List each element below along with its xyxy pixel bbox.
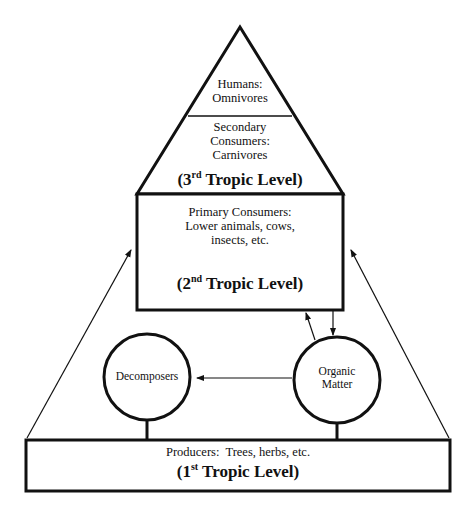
organic-matter-line-2: Matter: [302, 378, 372, 391]
first-level-prefix: (1: [177, 462, 191, 481]
third-level-suffix: Tropic Level): [202, 170, 303, 189]
third-level-line-2: Consumers:: [170, 134, 310, 148]
third-level-line-3: Carnivores: [170, 148, 310, 162]
third-level-line-1: Secondary: [170, 120, 310, 134]
decomposers-text: Decomposers: [116, 370, 179, 382]
second-level-line-3: insects, etc.: [140, 233, 340, 247]
first-level-line-1: Producers: Trees, herbs, etc.: [28, 445, 448, 459]
second-level-suffix: Tropic Level): [202, 274, 303, 293]
apex-label: Humans: Omnivores: [190, 77, 290, 105]
top-triangle: [137, 27, 343, 194]
decomposers-label: Decomposers: [107, 370, 187, 383]
first-level-suffix: Tropic Level): [198, 462, 299, 481]
apex-line-1: Humans:: [190, 77, 290, 91]
second-level-line-2: Lower animals, cows,: [140, 219, 340, 233]
apex-line-2: Omnivores: [190, 91, 290, 105]
third-level-sup: rd: [192, 169, 202, 180]
first-level-label: Producers: Trees, herbs, etc.: [28, 445, 448, 459]
third-level-label: Secondary Consumers: Carnivores: [170, 120, 310, 162]
organic-to-box-arrow: [306, 313, 315, 340]
organic-matter-label: Organic Matter: [302, 365, 372, 391]
organic-matter-line-1: Organic: [302, 365, 372, 378]
second-level-label: Primary Consumers: Lower animals, cows, …: [140, 205, 340, 247]
left-energy-arrow: [27, 250, 131, 438]
second-level-sup: nd: [191, 273, 202, 284]
second-level-prefix: (2: [177, 274, 191, 293]
second-level-title: (2nd Tropic Level): [140, 274, 340, 293]
first-level-title: (1st Tropic Level): [28, 462, 448, 481]
third-level-title: (3rd Tropic Level): [140, 170, 340, 189]
second-level-line-1: Primary Consumers:: [140, 205, 340, 219]
third-level-prefix: (3: [177, 170, 191, 189]
